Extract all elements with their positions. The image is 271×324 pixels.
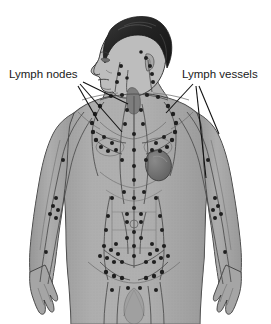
lymph-node (213, 216, 217, 220)
lymph-node (148, 252, 152, 256)
lymphatic-system-figure: Lymph nodes Lymph vessels (0, 0, 271, 324)
lymph-node (54, 196, 58, 200)
lymph-node (139, 50, 143, 54)
lymph-node (132, 132, 136, 136)
lymph-node (109, 248, 113, 252)
lymph-node (132, 148, 136, 152)
lymph-node (102, 135, 106, 139)
lymph-node (104, 228, 108, 232)
lymph-node (125, 76, 129, 80)
lymph-node (114, 148, 118, 152)
anatomy-illustration: Lymph nodes Lymph vessels (0, 0, 271, 324)
lymph-nodes-label: Lymph nodes (9, 68, 78, 80)
lymph-node (173, 130, 177, 134)
lymph-node (119, 64, 123, 68)
lymph-node (160, 228, 164, 232)
lymph-node (159, 256, 163, 260)
lymph-node (139, 108, 143, 112)
lymph-node (144, 158, 148, 162)
lymph-node (48, 212, 52, 216)
lymph-node (120, 260, 124, 264)
lymph-node (132, 254, 136, 258)
lymph-node (170, 138, 174, 142)
lymph-vessels-label: Lymph vessels (182, 68, 258, 80)
lymph-node (125, 236, 129, 240)
lymph-node (160, 270, 164, 274)
lymph-node (150, 72, 154, 76)
lymph-node (91, 130, 95, 134)
lymph-node (166, 104, 170, 108)
lymph-node (158, 214, 162, 218)
lymph-node (110, 288, 114, 292)
lymph-node (139, 212, 143, 216)
lymph-node (125, 220, 129, 224)
lymph-node (138, 286, 142, 290)
lymph-node (216, 204, 220, 208)
lymph-node (139, 220, 143, 224)
lymph-node (223, 250, 227, 254)
lymph-node (152, 260, 156, 264)
lymph-node (102, 244, 106, 248)
lymph-node (211, 208, 215, 212)
lymph-node (206, 158, 210, 162)
lymph-node (145, 93, 149, 97)
lymph-node (114, 242, 118, 246)
lymph-node (120, 158, 124, 162)
lymph-node (132, 206, 136, 210)
lymph-node (154, 141, 158, 145)
lymph-node (166, 254, 170, 258)
lymph-node (213, 196, 217, 200)
lymph-node (51, 204, 55, 208)
lymph-node (132, 178, 136, 182)
lymph-node (148, 64, 152, 68)
lymph-node (162, 135, 166, 139)
lymph-node (120, 276, 124, 280)
lymph-node (144, 260, 148, 264)
lymph-node (99, 145, 103, 149)
lymph-node (150, 242, 154, 246)
lymph-node (155, 248, 159, 252)
lymph-node (158, 149, 162, 153)
lymph-node (117, 72, 121, 76)
lymph-node (156, 95, 160, 99)
lymph-node (125, 212, 129, 216)
lymph-node (61, 158, 65, 162)
lymph-node (125, 108, 129, 112)
lymph-node (152, 274, 156, 278)
lymph-node (154, 288, 158, 292)
lymph-node (122, 190, 126, 194)
lymph-node (120, 93, 124, 97)
lymph-node (98, 254, 102, 258)
lymph-node (165, 145, 169, 149)
lymph-node (104, 270, 108, 274)
lymph-node (219, 212, 223, 216)
lymph-node (171, 112, 175, 116)
lymph-node (132, 196, 136, 200)
lymph-node (112, 260, 116, 264)
spleen (146, 150, 172, 181)
lymph-node (106, 149, 110, 153)
lymph-node (132, 244, 136, 248)
lymph-node (132, 230, 136, 234)
lymph-node (56, 208, 60, 212)
lymph-node (162, 244, 166, 248)
lymph-node (126, 286, 130, 290)
lymph-node (105, 256, 109, 260)
lymph-node (110, 196, 114, 200)
lymph-node (44, 250, 48, 254)
lymph-node (112, 274, 116, 278)
lymph-node (151, 80, 155, 84)
lymph-node (123, 122, 127, 126)
lymph-node (154, 196, 158, 200)
lymph-node (144, 276, 148, 280)
lymph-node (54, 216, 58, 220)
lymph-node (94, 138, 98, 142)
lymph-node (174, 121, 178, 125)
lymph-node (115, 80, 119, 84)
lymph-node (142, 190, 146, 194)
lymph-node (116, 252, 120, 256)
lymph-node (90, 121, 94, 125)
lymph-node (150, 148, 154, 152)
lymph-node (144, 56, 148, 60)
lymph-node (132, 164, 136, 168)
